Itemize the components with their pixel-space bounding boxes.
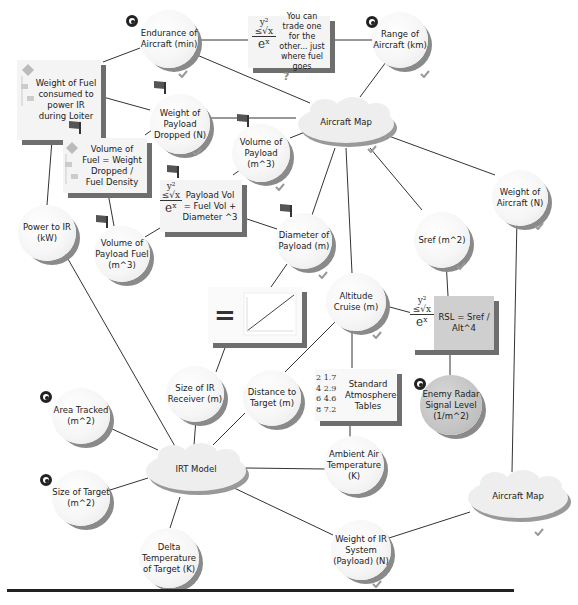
check-icon (178, 70, 188, 78)
node-label: Area Tracked (m^2) (52, 405, 110, 427)
table-cell: 4.6 (324, 394, 337, 403)
table-cell: 1.7 (324, 373, 337, 382)
table-row: 2 1.7 (316, 373, 336, 384)
node-label: Range of Aircraft (km) (372, 29, 428, 51)
node-label: Endurance of Aircraft (min) (140, 28, 198, 50)
node-label: Standard Atmosphere Tables (345, 379, 391, 412)
node-label: Delta Temperature of Target (K) (139, 542, 199, 575)
check-icon (372, 331, 382, 339)
node-aircraft-map-top[interactable]: Aircraft Map (296, 97, 396, 147)
node-label: Weight of Payload Dropped (N) (150, 108, 210, 141)
check-icon (275, 183, 285, 191)
check-icon (192, 148, 202, 156)
table-cell: 2.9 (324, 384, 337, 393)
formula-bot: eˣ (252, 37, 276, 51)
node-label: RSL = Sref / Alt^4 (438, 312, 490, 334)
bottom-divider (7, 589, 514, 592)
table-icon: 2 1.7 4 2.9 6 4.6 8 7.2 (316, 373, 336, 415)
formula-icon: y² ≤√x eˣ (252, 18, 276, 51)
node-delta-temperature-of-target[interactable]: Delta Temperature of Target (K) (139, 528, 199, 588)
formula-bot: eˣ (160, 201, 182, 215)
node-label: Payload Vol = Fuel Vol + Diameter ^3 (182, 190, 238, 223)
formula-icon: y² ≤√x eˣ (410, 296, 434, 350)
formula-bot: eˣ (410, 315, 434, 329)
flag-icon (236, 113, 250, 127)
check-icon (534, 528, 544, 536)
check-icon (534, 222, 544, 230)
node-label: Aircraft Map (492, 491, 544, 502)
table-cell: 4 (316, 384, 321, 393)
node-range-of-aircraft[interactable]: Range of Aircraft (km) (372, 12, 428, 68)
table-cell: 6 (316, 394, 321, 403)
node-volume-payload-fuel[interactable]: Volume of Payload Fuel (m^3) (94, 226, 150, 282)
node-volume-of-payload[interactable]: Volume of Payload (m^3) (232, 124, 290, 182)
node-weight-payload-dropped[interactable]: Weight of Payload Dropped (N) (150, 94, 210, 154)
node-distance-to-target[interactable]: Distance to Target (m) (243, 370, 301, 426)
concept-map-canvas: Endurance of Aircraft (min) You can trad… (0, 0, 578, 605)
table-cell: 2 (316, 373, 321, 382)
check-icon (420, 70, 430, 78)
node-label: Enemy Radar Signal Level (1/m^2) (420, 389, 482, 422)
flag-icon (166, 164, 180, 178)
flag-icon (279, 203, 293, 217)
node-label: Ambient Air Temperature (K) (324, 449, 384, 482)
node-label: Distance to Target (m) (243, 387, 301, 409)
equals-icon: = (214, 310, 236, 321)
check-icon (318, 271, 328, 279)
check-icon (372, 580, 382, 588)
target-icon (40, 391, 52, 403)
target-icon (40, 474, 52, 486)
node-label: Volume of Payload Fuel (m^3) (94, 238, 150, 271)
node-weight-of-ir-system[interactable]: Weight of IR System (Payload) (N) (331, 520, 391, 580)
flag-icon (95, 214, 109, 228)
node-irt-model[interactable]: IRT Model (144, 443, 248, 495)
formula-icon: y² ≤√x eˣ (160, 182, 182, 215)
node-label: Sref (m^2) (418, 235, 465, 246)
check-icon (456, 262, 466, 270)
flowchart-icon (63, 140, 81, 186)
node-label: Volume of Payload (m^3) (232, 137, 290, 170)
table-row: 6 4.6 (316, 394, 336, 405)
line-graph-icon (243, 291, 297, 337)
node-altitude-cruise[interactable]: Altitude Cruise (m) (326, 273, 386, 331)
target-icon (126, 15, 138, 27)
node-label: Size of IR Receiver (m) (166, 383, 224, 405)
node-label: IRT Model (175, 464, 216, 475)
node-area-tracked[interactable]: Area Tracked (m^2) (52, 388, 110, 444)
node-enemy-radar-signal-level[interactable]: Enemy Radar Signal Level (1/m^2) (420, 375, 482, 435)
node-label: You can trade one for the other... just … (278, 12, 326, 72)
node-label: Weight of Aircraft (N) (492, 187, 548, 209)
table-row: 4 2.9 (316, 384, 336, 395)
node-size-ir-receiver[interactable]: Size of IR Receiver (m) (166, 366, 224, 422)
node-endurance-of-aircraft[interactable]: Endurance of Aircraft (min) (140, 10, 198, 68)
flag-icon (68, 120, 82, 134)
target-icon (366, 16, 378, 28)
check-icon (367, 145, 377, 153)
node-label: Weight of IR System (Payload) (N) (331, 534, 391, 567)
node-label: Altitude Cruise (m) (326, 291, 386, 313)
formula-mid: ≤√x (160, 191, 182, 201)
node-label: Weight of Fuel consumed to power IR duri… (35, 78, 97, 122)
formula-mid: ≤√x (410, 305, 434, 315)
node-label: Diameter of Payload (m) (276, 230, 332, 252)
node-size-of-target[interactable]: Size of Target (m^2) (52, 470, 110, 526)
node-label: Volume of Fuel = Weight Dropped / Fuel D… (81, 144, 143, 188)
formula-mid: ≤√x (252, 27, 276, 37)
table-cell: 7.2 (324, 405, 337, 414)
table-cell: 8 (316, 405, 321, 414)
flag-icon (153, 80, 167, 94)
table-row: 8 7.2 (316, 405, 336, 416)
node-sref[interactable]: Sref (m^2) (414, 212, 470, 268)
node-diameter-of-payload[interactable]: Diameter of Payload (m) (276, 213, 332, 269)
node-weight-of-aircraft[interactable]: Weight of Aircraft (N) (492, 170, 548, 226)
node-aircraft-map-bottom[interactable]: Aircraft Map (466, 470, 570, 522)
node-label: Aircraft Map (320, 117, 372, 128)
node-label: Power to IR (kW) (18, 222, 76, 244)
node-label: Size of Target (m^2) (52, 487, 110, 509)
node-ambient-air-temperature[interactable]: Ambient Air Temperature (K) (324, 436, 384, 494)
node-power-to-ir[interactable]: Power to IR (kW) (18, 205, 76, 261)
